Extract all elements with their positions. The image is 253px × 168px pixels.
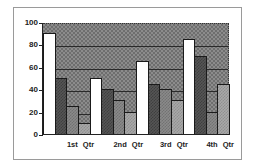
x-tick-label: 3rd Qtr bbox=[160, 140, 188, 149]
y-tick bbox=[39, 68, 43, 69]
x-axis bbox=[42, 134, 230, 135]
y-tick-label: 40 bbox=[14, 86, 38, 94]
y-tick-label: 20 bbox=[14, 109, 38, 117]
y-tick bbox=[39, 135, 43, 136]
y-tick bbox=[39, 90, 43, 91]
y-tick-label: 80 bbox=[14, 41, 38, 49]
x-tick-label: 4th Qtr bbox=[206, 140, 234, 149]
y-tick-label: 100 bbox=[14, 19, 38, 27]
bar-4-series-4 bbox=[217, 84, 230, 135]
y-axis bbox=[42, 23, 43, 136]
x-tick-label: 2nd Qtr bbox=[113, 140, 143, 149]
y-tick bbox=[39, 23, 43, 24]
y-tick-label: 60 bbox=[14, 64, 38, 72]
y-tick-label: 0 bbox=[14, 131, 38, 139]
x-tick-label: 1st Qtr bbox=[67, 140, 94, 149]
plot-area bbox=[43, 23, 229, 135]
y-tick bbox=[39, 113, 43, 114]
gridline bbox=[43, 46, 228, 47]
y-tick bbox=[39, 45, 43, 46]
